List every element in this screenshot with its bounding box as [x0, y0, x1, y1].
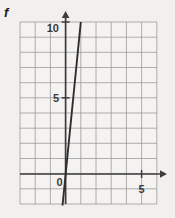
y-axis-label-5: 5 [53, 92, 59, 104]
figure-container: f [0, 0, 175, 218]
x-axis-arrow-icon [160, 170, 167, 178]
coordinate-plane-plot: 10 5 0 5 [0, 0, 175, 218]
y-axis-label-10: 10 [47, 22, 59, 34]
origin-label: 0 [56, 176, 62, 188]
y-axis-arrow-icon [62, 11, 70, 18]
x-axis-label-5: 5 [139, 183, 145, 195]
